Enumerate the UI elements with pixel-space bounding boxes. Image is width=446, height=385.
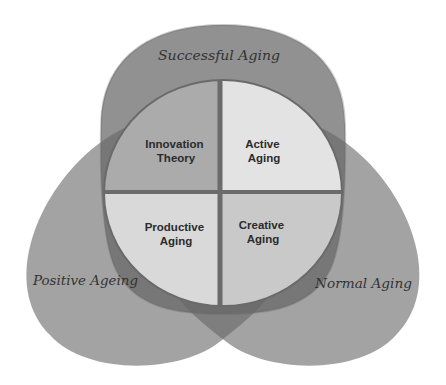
label-line: Aging [247, 233, 280, 245]
venn-diagram: Successful Aging Positive Ageing Normal … [0, 0, 446, 385]
label-successful-aging: Successful Aging [158, 48, 280, 63]
horizontal-divider [100, 190, 346, 194]
label-line: Theory [157, 152, 196, 164]
label-line: Aging [248, 152, 281, 164]
label-positive-ageing: Positive Ageing [32, 273, 138, 288]
label-line: Aging [160, 235, 193, 247]
label-line: Active [245, 138, 280, 150]
label-line: Productive [145, 221, 204, 233]
label-normal-aging: Normal Aging [314, 276, 412, 291]
label-line: Creative [239, 219, 284, 231]
label-line: Innovation [145, 138, 203, 150]
diagram-canvas: Successful Aging Positive Ageing Normal … [0, 0, 446, 385]
